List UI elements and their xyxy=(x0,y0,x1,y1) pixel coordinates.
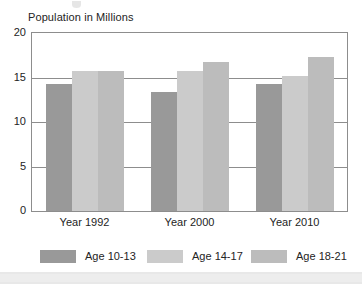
bar xyxy=(151,92,177,211)
bar xyxy=(203,62,229,211)
legend-swatch xyxy=(40,250,76,263)
bar xyxy=(46,84,72,211)
y-axis-tick-label: 10 xyxy=(0,115,26,127)
y-axis-tick-label: 15 xyxy=(0,71,26,83)
y-axis-tick-label: 0 xyxy=(0,204,26,216)
bottom-band xyxy=(0,272,362,284)
bar xyxy=(98,71,124,211)
bar xyxy=(282,76,308,211)
bar xyxy=(256,84,282,211)
chart-title: Population in Millions xyxy=(28,11,134,23)
y-axis-tick-label: 5 xyxy=(0,160,26,172)
legend-item[interactable]: Age 10-13 xyxy=(40,248,136,264)
chart-legend: Age 10-13Age 14-17Age 18-21 xyxy=(31,248,351,264)
legend-swatch xyxy=(147,250,183,263)
legend-label: Age 10-13 xyxy=(85,250,136,262)
x-axis-tick-label: Year 2010 xyxy=(250,216,340,228)
bar xyxy=(72,71,98,211)
bars-layer xyxy=(32,33,347,211)
legend-label: Age 14-17 xyxy=(192,250,243,262)
decorative-speck xyxy=(72,1,81,8)
bar xyxy=(177,71,203,211)
legend-swatch xyxy=(251,250,287,263)
bar-chart-figure: Population in Millions 05101520 Year 199… xyxy=(0,0,362,284)
y-axis-tick-label: 20 xyxy=(0,26,26,38)
legend-item[interactable]: Age 14-17 xyxy=(147,248,243,264)
bar xyxy=(308,57,334,211)
bottom-band-inner xyxy=(0,274,362,282)
legend-label: Age 18-21 xyxy=(296,250,347,262)
legend-item[interactable]: Age 18-21 xyxy=(251,248,347,264)
x-axis-tick-label: Year 1992 xyxy=(40,216,130,228)
x-axis-tick-label: Year 2000 xyxy=(145,216,235,228)
